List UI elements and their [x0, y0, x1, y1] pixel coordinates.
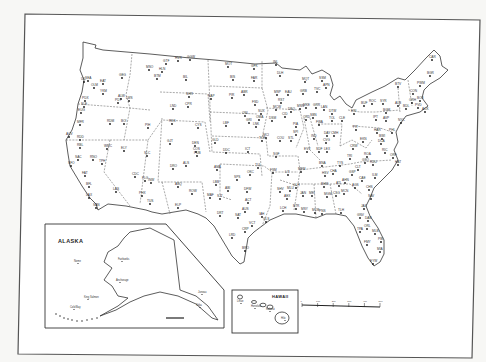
station-label: PHX [139, 191, 146, 195]
station-label: SAC [75, 155, 82, 159]
station-label: IND [311, 134, 317, 138]
station-label: ABQ [175, 182, 182, 186]
station-label: ORL [364, 224, 371, 228]
station-label: EAU [285, 90, 292, 94]
station-label: SPS [234, 175, 240, 179]
station-label: SUX [258, 109, 265, 113]
station-label: SSM [319, 76, 326, 80]
city-dot-icon [199, 307, 200, 308]
scale-tick-label: 100 [316, 300, 321, 303]
station-label: MSO [146, 65, 154, 69]
station-label: LAN [321, 105, 328, 109]
station-label: CSG [333, 191, 340, 195]
station-label: HAT [395, 160, 401, 164]
station-label: MLB [372, 229, 379, 233]
station-label: PIT [353, 125, 358, 129]
station-label: AUS [242, 207, 249, 211]
station-label: SAV [368, 194, 375, 198]
station-label: MEM [298, 167, 306, 171]
station-label: CAR [429, 55, 436, 59]
station-label: ABI [225, 186, 230, 190]
station-label: DFW [244, 187, 251, 191]
station-label: DAY [324, 131, 331, 135]
station-label: MLU [287, 186, 294, 190]
station-label: LBB [213, 180, 219, 184]
station-label: ROA [364, 152, 372, 156]
station-label: AVP [383, 116, 389, 120]
station-label: LCH [280, 206, 287, 210]
station-label: SAT [235, 213, 241, 217]
station-label: BGM [383, 108, 391, 112]
station-label: SAN [93, 203, 100, 207]
station-label: GTF [163, 59, 169, 63]
station-label: AGS [352, 183, 359, 187]
station-label: GEG [119, 73, 127, 77]
station-label: DCA [378, 139, 386, 143]
station-label: BIL [183, 75, 188, 79]
us-station-map: ALASKA NomeFairbanksAnchorageKing Salmon… [0, 0, 486, 362]
station-label: CRW [350, 144, 358, 148]
station-label: WMC [104, 144, 113, 148]
station-label: OKC [247, 170, 255, 174]
station-label: UIL [81, 77, 86, 81]
city-dot-icon [269, 311, 270, 312]
station-label: SPI [293, 130, 298, 134]
station-label: ELY [121, 146, 128, 150]
station-label: RIC [382, 148, 388, 152]
station-label: EKN [360, 137, 367, 141]
station-label: CLT [355, 165, 361, 169]
station-label: DBQ [288, 107, 295, 111]
station-label: SHR [186, 92, 193, 96]
station-label: TYS [337, 161, 343, 165]
station-label: GGW [187, 55, 195, 59]
city-dot-icon [87, 299, 88, 300]
station-label: ACT [245, 198, 251, 202]
station-label: SYR [380, 99, 387, 103]
station-label: SGF [273, 152, 280, 156]
station-label: DTW [329, 109, 336, 113]
station-label: TVC [314, 87, 321, 91]
city-label: Lihue [237, 299, 244, 303]
city-dot-icon [284, 320, 285, 321]
station-label: PBI [378, 237, 383, 241]
station-label: EVV [304, 147, 311, 151]
station-label: RAP [208, 94, 215, 98]
city-label: Honolulu [251, 304, 262, 308]
station-label: MIA [377, 247, 384, 251]
station-label: RDD [77, 135, 85, 139]
station-label: CPR [185, 102, 192, 106]
station-label: FWA [316, 120, 324, 124]
station-label: CMH [331, 131, 339, 135]
station-label: SLC [144, 151, 151, 155]
station-label: HAR [374, 128, 381, 132]
city-dot-icon [73, 309, 74, 310]
station-label: CYS [195, 123, 202, 127]
station-label: MCI [263, 133, 269, 137]
station-label: MOT [225, 62, 232, 66]
station-label: MCW [273, 105, 281, 109]
city-dot-icon [77, 263, 78, 264]
station-label: LWS [126, 96, 133, 100]
station-label: GRR [313, 103, 321, 107]
station-label: MFR [77, 120, 85, 124]
station-label: LAS [113, 187, 119, 191]
city-label: Fairbanks [118, 257, 130, 261]
station-label: CHS [366, 185, 373, 189]
station-label: CDC [132, 172, 140, 176]
station-label: FSD [252, 100, 259, 104]
city-dot-icon [254, 308, 255, 309]
station-label: GLD [212, 138, 219, 142]
station-label: HLN [159, 67, 166, 71]
station-label: MKE [303, 103, 310, 107]
hawaii-title: HAWAII [272, 294, 289, 299]
station-label: MAF [207, 193, 214, 197]
station-label: CVG [323, 138, 330, 142]
station-label: BWI [379, 134, 385, 138]
station-label: ROC [369, 99, 377, 103]
station-label: GJT [167, 139, 173, 143]
station-label: AMA [214, 165, 222, 169]
station-label: CRP [242, 227, 249, 231]
station-label: EUG [78, 108, 85, 112]
station-label: DLH [277, 71, 284, 75]
station-label: VCT [249, 221, 255, 225]
